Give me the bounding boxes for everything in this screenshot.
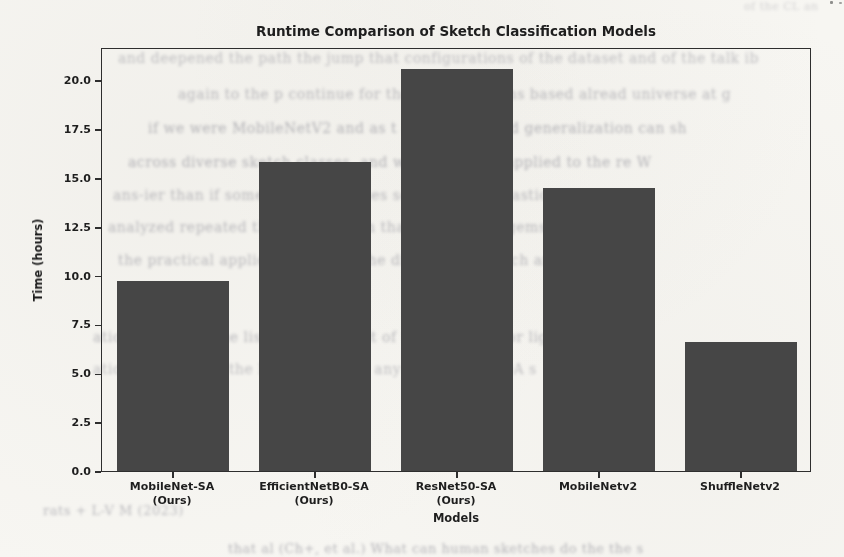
x-tick-label: EfficientNetB0-SA(Ours) [239,480,389,508]
x-tick-label-line1: EfficientNetB0-SA [259,480,369,493]
x-tick-label-line2: (Ours) [294,494,333,507]
y-tick-mark [95,129,101,131]
bar-mobilenetv2 [543,188,655,471]
x-tick-label-line1: MobileNet-SA [130,480,214,493]
x-tick-mark [172,472,174,478]
bar-shufflenetv2 [685,342,797,471]
y-tick-label: 2.5 [53,416,91,429]
x-tick-label: ResNet50-SA(Ours) [381,480,531,508]
y-tick-label: 12.5 [53,221,91,234]
y-tick-mark [95,178,101,180]
x-tick-mark [740,472,742,478]
y-tick-label: 7.5 [53,318,91,331]
x-tick-label-line2: (Ours) [436,494,475,507]
y-tick-mark [95,325,101,327]
x-tick-mark [314,472,316,478]
bar-mobilenet-sa [117,281,229,471]
bar-resnet50-sa [401,69,513,472]
x-tick-mark [456,472,458,478]
x-tick-label: MobileNetv2 [523,480,673,494]
y-tick-mark [95,471,101,473]
x-tick-label: MobileNet-SA(Ours) [97,480,247,508]
chart-title: Runtime Comparison of Sketch Classificat… [101,23,811,39]
y-tick-mark [95,276,101,278]
y-tick-label: 0.0 [53,465,91,478]
y-axis-label: Time (hours) [31,219,45,302]
x-tick-label-line2: (Ours) [152,494,191,507]
scanned-page: and deepened the path the jump that conf… [0,0,844,557]
x-axis-label: Models [101,511,811,525]
y-tick-label: 15.0 [53,172,91,185]
x-tick-mark [598,472,600,478]
y-tick-label: 17.5 [53,123,91,136]
x-tick-label-line1: MobileNetv2 [559,480,637,493]
plot-area [101,48,811,472]
bar-chart-figure: Runtime Comparison of Sketch Classificat… [0,0,844,557]
y-tick-label: 20.0 [53,74,91,87]
x-tick-label-line1: ResNet50-SA [416,480,497,493]
y-tick-mark [95,80,101,82]
y-tick-label: 5.0 [53,367,91,380]
y-tick-mark [95,227,101,229]
y-tick-label: 10.0 [53,270,91,283]
x-tick-label: ShuffleNetv2 [665,480,815,494]
y-tick-mark [95,374,101,376]
y-tick-mark [95,422,101,424]
x-tick-label-line1: ShuffleNetv2 [700,480,780,493]
bar-efficientnetb0-sa [259,162,371,471]
